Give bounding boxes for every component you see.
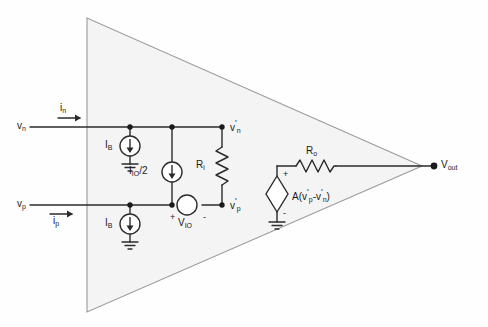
opamp-triangle-body: [87, 18, 422, 312]
label-node-internal-vn: v'n: [230, 120, 241, 133]
junction-ib-bottom: [127, 202, 132, 207]
label-current-ip: ip: [53, 216, 59, 226]
junction-ib-top: [127, 124, 132, 129]
node-internal-vn: [219, 124, 224, 129]
label-output-resistance: Ro: [306, 146, 317, 156]
junction-iio-bottom: [169, 202, 174, 207]
terminal-output-dot: [431, 163, 438, 170]
label-bias-current-top: IB: [105, 140, 112, 150]
polarity-plus-dependent-source: +: [283, 170, 288, 179]
current-source-offset-iio: [162, 162, 182, 182]
label-offset-current: IIO/2: [129, 166, 148, 176]
label-inverting-input: vn: [17, 121, 26, 131]
current-source-ib-bottom: [120, 214, 140, 234]
label-bias-current-bottom: IB: [105, 218, 112, 228]
label-noninverting-input: vp: [17, 199, 26, 209]
label-dependent-source-expression: A(v'p-v'n): [292, 189, 330, 202]
label-node-internal-vp: v'p: [230, 198, 241, 211]
current-arrow-in: [58, 115, 81, 122]
label-offset-voltage: VIO: [178, 218, 192, 228]
polarity-plus-vio: +: [170, 213, 175, 222]
circuit-diagram: vn in vp ip IB IB IIO/2 Ri Ro VIO + - v'…: [0, 0, 488, 327]
label-current-in: in: [60, 103, 66, 113]
junction-iio-top: [169, 124, 174, 129]
current-source-ib-top: [120, 136, 140, 156]
voltage-source-offset-vio: [177, 195, 197, 215]
polarity-minus-vio: -: [203, 213, 206, 222]
label-output-terminal: Vout: [441, 160, 457, 170]
node-internal-vp: [219, 202, 224, 207]
circuit-schematic-canvas: [0, 0, 488, 327]
label-input-resistance: Ri: [196, 160, 205, 170]
polarity-minus-dependent-source: -: [283, 209, 286, 218]
